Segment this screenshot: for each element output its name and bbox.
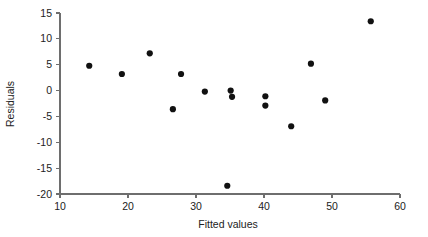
data-point: [178, 71, 184, 77]
residual-scatter-chart: 151050-5-10-15-20 102030405060 Residuals…: [0, 0, 428, 237]
y-axis-tick-label: -20: [37, 188, 52, 200]
y-axis-tick-label: -15: [37, 162, 52, 174]
data-point: [262, 102, 268, 108]
y-axis-tick-label: 0: [46, 84, 52, 96]
x-axis-tick-label: 50: [326, 200, 338, 212]
y-axis-tick-label: -10: [37, 136, 52, 148]
y-axis-tick-label: 5: [46, 58, 52, 70]
data-point: [308, 61, 314, 67]
x-axis-tick-label: 60: [394, 200, 406, 212]
x-axis-tick-label: 20: [122, 200, 134, 212]
y-axis-tick-label: 15: [40, 7, 52, 19]
data-point: [228, 87, 234, 93]
data-points-layer: [86, 18, 374, 189]
data-point: [229, 94, 235, 100]
y-axis-tick-label: -5: [43, 110, 52, 122]
plot-canvas: 151050-5-10-15-20 102030405060 Residuals…: [0, 0, 428, 237]
x-axis-tick-label: 40: [258, 200, 270, 212]
data-point: [119, 71, 125, 77]
x-axis-tick-label: 10: [54, 200, 66, 212]
data-point: [147, 50, 153, 56]
x-axis-title: Fitted values: [198, 218, 258, 230]
data-point: [224, 183, 230, 189]
data-point: [170, 106, 176, 112]
x-axis: 102030405060: [54, 194, 406, 212]
data-point: [262, 93, 268, 99]
data-point: [368, 18, 374, 24]
y-axis: 151050-5-10-15-20: [37, 7, 60, 200]
data-point: [202, 89, 208, 95]
y-axis-tick-label: 10: [40, 32, 52, 44]
data-point: [322, 97, 328, 103]
data-point: [86, 63, 92, 69]
y-axis-title: Residuals: [4, 81, 16, 127]
data-point: [288, 123, 294, 129]
x-axis-tick-label: 30: [190, 200, 202, 212]
